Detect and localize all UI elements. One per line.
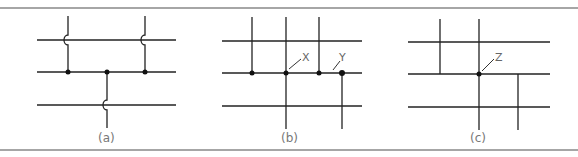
caption-b: (b) <box>281 131 298 145</box>
label-x: X <box>302 51 310 64</box>
caption-a: (a) <box>98 131 115 145</box>
label-z: Z <box>495 51 503 64</box>
panel-c: Z (c) <box>408 19 550 145</box>
caption-c: (c) <box>470 131 486 145</box>
panel-b: X Y (b) <box>222 17 362 145</box>
label-y: Y <box>338 51 346 64</box>
wiring-diagram: (a) X Y (b) Z (c) <box>0 0 578 157</box>
panel-a: (a) <box>37 16 176 145</box>
